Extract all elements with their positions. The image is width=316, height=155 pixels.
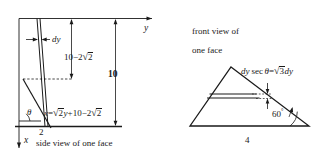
- eq-const: 10: [73, 108, 82, 118]
- y-axis-label: y: [144, 24, 148, 34]
- x-axis-label: x: [24, 136, 28, 146]
- figure-vector-layer: [0, 0, 316, 155]
- dy-strip-label: dy: [52, 35, 61, 44]
- eq-radicand-2: 2: [96, 108, 102, 118]
- dy-arrow-left-head: [33, 38, 38, 42]
- right-diagram-caption-line1: front view of: [192, 27, 239, 36]
- math-figure-side-and-front-view: y x dy 10−2√2 10 θ 2 x=√2y+10−2√2 side v…: [0, 0, 316, 155]
- dim-total-arrow-top: [114, 19, 118, 24]
- dim-total-arrow-bottom: [114, 121, 118, 126]
- theta-angle-label: θ: [27, 108, 31, 117]
- thickness-sec: sec: [252, 66, 264, 76]
- dim-upper-radicand: 2: [88, 52, 94, 62]
- right-diagram-caption-line2: one face: [192, 46, 222, 55]
- y-axis-arrowhead: [147, 16, 153, 20]
- slab-thickness-label: dysecθ=√3dy: [241, 66, 293, 76]
- angle-60-value: 60: [272, 109, 281, 119]
- thickness-dy: dy: [241, 66, 250, 76]
- base-length-label: 2: [39, 128, 44, 137]
- dim-upper-label: 10−2√2: [64, 52, 93, 62]
- dim-total-label: 10: [108, 70, 118, 80]
- dim-upper-arrow-top: [70, 19, 74, 24]
- dim-upper-const: 10: [64, 52, 73, 62]
- boundary-equation-label: x=√2y+10−2√2: [44, 108, 102, 118]
- thickness-dy-2: dy: [285, 66, 294, 76]
- angle-60-label: 60°: [272, 108, 283, 119]
- degree-symbol-icon: °: [281, 108, 283, 114]
- thickness-arrow-lower-head: [266, 99, 270, 104]
- dy-arrow-right-head: [42, 38, 47, 42]
- x-axis-arrowhead: [17, 143, 21, 149]
- triangle-base-label: 4: [245, 136, 250, 145]
- dim-upper-arrow-bottom: [70, 74, 74, 79]
- left-diagram-caption: side view of one face: [36, 139, 112, 148]
